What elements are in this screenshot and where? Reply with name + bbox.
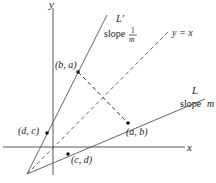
line-l — [27, 99, 205, 174]
point-dc-label: (d, c) — [18, 125, 40, 137]
reflection-diagram: y x L′ slope 1 m y = x L slope m (b, a) … — [0, 0, 216, 183]
point-dc — [45, 131, 49, 135]
line-l-prime — [27, 15, 107, 174]
line-l-prime-name: L′ — [115, 13, 125, 24]
line-l-prime-slope-den: m — [129, 35, 135, 44]
y-axis-label: y — [48, 0, 54, 10]
identity-line-label: y = x — [171, 27, 193, 38]
point-ba — [76, 70, 80, 74]
point-ab-label: (a, b) — [126, 126, 148, 138]
point-ab — [126, 121, 130, 125]
line-l-name: L — [191, 85, 198, 96]
line-l-prime-slope-num: 1 — [131, 26, 135, 35]
line-l-prime-slope-text: slope — [104, 28, 126, 39]
reflection-segment — [78, 72, 128, 123]
point-ba-label: (b, a) — [55, 59, 77, 71]
point-cd — [66, 152, 70, 156]
line-y-equals-x — [27, 32, 168, 174]
line-l-slope-text: slope — [180, 98, 202, 109]
point-cd-label: (c, d) — [71, 154, 93, 166]
x-axis-label: x — [186, 141, 192, 153]
line-l-slope-var: m — [207, 98, 214, 109]
